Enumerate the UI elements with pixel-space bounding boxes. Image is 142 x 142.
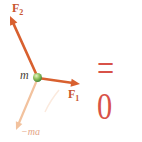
fictitious-force-label: −ma <box>21 127 40 137</box>
force-f1-shaft <box>38 78 73 83</box>
force-label-f1: F1 <box>68 88 79 103</box>
mass-dot <box>33 73 42 82</box>
faded-reflection-streak <box>45 90 59 112</box>
equation-equals-zero: = 0 <box>97 49 133 125</box>
fictitious-force-ma-shaft <box>18 80 37 124</box>
force-label-f2-subscript: 2 <box>19 8 23 17</box>
force-label-f2: F2 <box>12 2 23 17</box>
force-label-f1-subscript: 1 <box>75 94 79 103</box>
free-body-diagram: F2 F1 m −ma = 0 <box>0 0 142 142</box>
force-f1-arrowhead <box>71 79 80 87</box>
mass-label: m <box>20 69 29 81</box>
